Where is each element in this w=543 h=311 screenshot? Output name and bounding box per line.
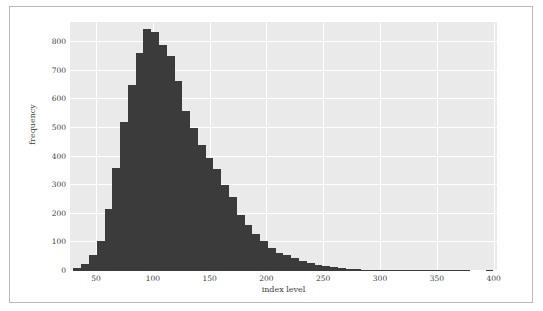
histogram-bar (447, 270, 455, 271)
histogram-bar (322, 266, 330, 271)
histogram-bar (361, 270, 369, 271)
y-tick-label: 0 (36, 267, 66, 275)
y-tick-label: 400 (36, 153, 66, 161)
y-axis-ticks: 0100200300400500600700800 (36, 22, 66, 271)
y-axis-label: frequency (26, 0, 38, 249)
histogram-bar (369, 270, 377, 271)
histogram-bar (151, 32, 159, 271)
histogram-bar (346, 269, 354, 271)
x-tick-label: 250 (303, 274, 343, 283)
histogram-bar (408, 270, 416, 271)
histogram-bar (105, 209, 113, 271)
histogram-bar (120, 122, 128, 271)
histogram-bar (385, 270, 393, 271)
y-tick-label: 700 (36, 67, 66, 75)
histogram-bar (276, 253, 284, 271)
histogram-bar (377, 270, 385, 271)
histogram-figure: 0100200300400500600700800 50100150200250… (0, 0, 543, 311)
histogram-bar (486, 270, 494, 271)
histogram-bar (423, 270, 431, 271)
histogram-bar (268, 248, 276, 271)
histogram-bar (182, 111, 190, 271)
histogram-bar (315, 265, 323, 271)
plot-area (70, 22, 497, 271)
x-tick-label: 150 (190, 274, 230, 283)
y-tick-label: 300 (36, 181, 66, 189)
x-tick-label: 400 (474, 274, 514, 283)
x-tick-label: 200 (246, 274, 286, 283)
histogram-bar (462, 270, 470, 271)
histogram-bar (283, 255, 291, 271)
histogram-bar (416, 270, 424, 271)
x-tick-label: 50 (76, 274, 116, 283)
histogram-bar (81, 264, 89, 271)
y-tick-label: 500 (36, 124, 66, 132)
x-axis-label: index level (70, 285, 497, 294)
histogram-bar (73, 268, 81, 271)
histogram-bar (89, 255, 97, 271)
y-axis-label-text: frequency (28, 104, 37, 145)
histogram-bar (237, 215, 245, 271)
x-tick-label: 300 (360, 274, 400, 283)
histogram-bar (229, 197, 237, 271)
histogram-bar (198, 145, 206, 271)
histogram-bar (291, 258, 299, 271)
y-tick-label: 800 (36, 38, 66, 46)
histogram-bar (206, 158, 214, 271)
histogram-bar (299, 261, 307, 271)
x-tick-label: 350 (417, 274, 457, 283)
histogram-bar (455, 270, 463, 271)
histogram-bar (392, 270, 400, 271)
histogram-bar (175, 81, 183, 271)
histogram-bar (159, 45, 167, 271)
histogram-bar (338, 268, 346, 271)
histogram-bar (307, 263, 315, 271)
x-tick-label: 100 (133, 274, 173, 283)
y-tick-label: 200 (36, 210, 66, 218)
histogram-bar (112, 168, 120, 271)
histogram-bars (70, 22, 497, 271)
histogram-bar (400, 270, 408, 271)
histogram-bar (128, 85, 136, 271)
histogram-bar (97, 241, 105, 271)
histogram-bar (190, 128, 198, 271)
histogram-bar (431, 270, 439, 271)
y-tick-label: 100 (36, 238, 66, 246)
histogram-bar (143, 29, 151, 271)
histogram-bar (221, 185, 229, 271)
histogram-bar (167, 56, 175, 271)
histogram-bar (439, 270, 447, 271)
histogram-bar (353, 269, 361, 271)
histogram-bar (252, 234, 260, 271)
histogram-bar (245, 225, 253, 271)
histogram-bar (213, 169, 221, 271)
histogram-bar (136, 53, 144, 271)
y-tick-label: 600 (36, 95, 66, 103)
histogram-bar (330, 267, 338, 271)
histogram-bar (260, 241, 268, 271)
